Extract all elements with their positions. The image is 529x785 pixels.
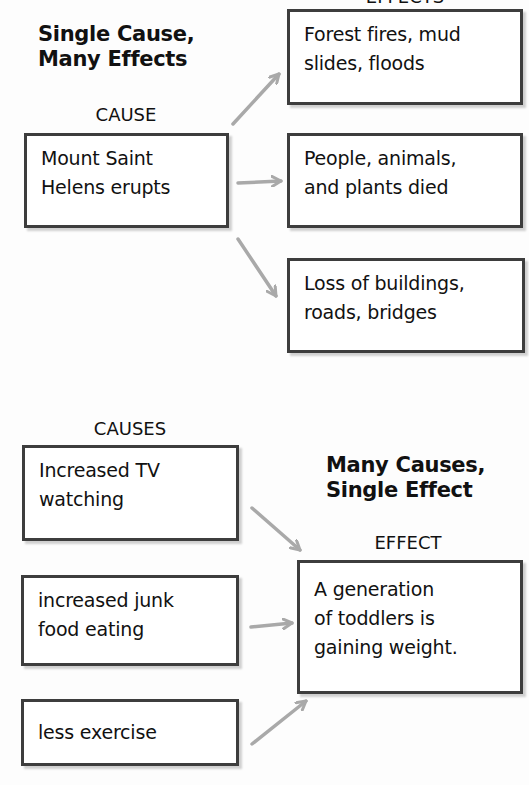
title-line-2: Single Effect: [326, 478, 485, 503]
title-line-1: Many Causes,: [326, 453, 485, 478]
cause-box: Mount Saint Helens erupts: [24, 133, 229, 228]
arrow-icon: [238, 181, 281, 183]
effects-label: EFFECTS: [340, 0, 470, 8]
cause-box-1: Increased TV watching: [22, 445, 239, 541]
arrow-icon: [252, 701, 306, 744]
effect-box-1: Forest fires, mud slides, floods: [287, 9, 523, 105]
title-line-1: Single Cause,: [38, 22, 194, 47]
arrow-icon: [252, 508, 300, 550]
cause-box-2: increased junk food eating: [21, 575, 239, 666]
causes-label: CAUSES: [65, 418, 195, 440]
effect-box-3: Loss of buildings, roads, bridges: [287, 258, 525, 353]
diagram-title-single-cause: Single Cause, Many Effects: [38, 22, 194, 72]
effect-box-2: People, animals, and plants died: [287, 133, 523, 228]
effect-box: A generation of toddlers is gaining weig…: [297, 560, 523, 694]
arrow-icon: [238, 239, 276, 296]
effect-label: EFFECT: [348, 532, 468, 554]
arrow-icon: [233, 74, 279, 124]
cause-box-3: less exercise: [21, 699, 239, 766]
diagram-title-many-causes: Many Causes, Single Effect: [326, 453, 485, 503]
arrow-icon: [251, 623, 292, 627]
title-line-2: Many Effects: [38, 47, 194, 72]
cause-label: CAUSE: [66, 104, 186, 126]
